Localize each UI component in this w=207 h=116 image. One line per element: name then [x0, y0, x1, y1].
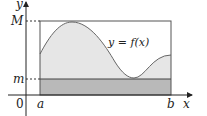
- diagram: y x 0 M m a b y = f(x): [0, 0, 207, 116]
- right-endpoint-label: b: [167, 97, 175, 111]
- upper-bound-label: M: [10, 14, 24, 28]
- y-axis-label: y: [15, 0, 23, 11]
- origin-label: 0: [16, 97, 24, 111]
- x-axis-label: x: [183, 97, 190, 111]
- left-endpoint-label: a: [37, 97, 44, 111]
- lower-bound-label: m: [13, 72, 24, 86]
- curve-label: y = f(x): [107, 36, 149, 49]
- lower-bound-rectangle: [40, 79, 171, 95]
